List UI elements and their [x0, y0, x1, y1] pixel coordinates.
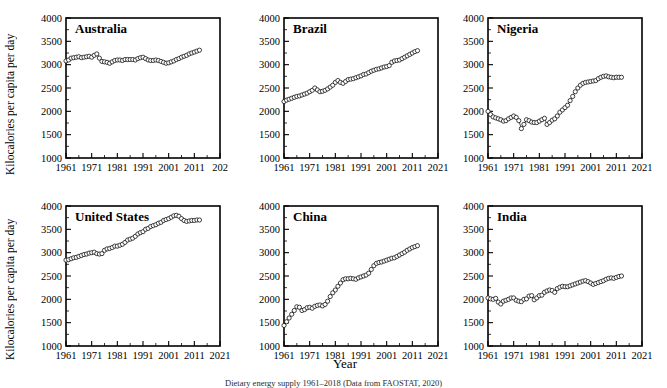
svg-text:2001: 2001 — [376, 162, 397, 173]
svg-text:1500: 1500 — [41, 317, 62, 328]
svg-text:202: 202 — [212, 162, 228, 173]
svg-text:2011: 2011 — [184, 162, 205, 173]
svg-text:1981: 1981 — [529, 350, 550, 361]
svg-text:2001: 2001 — [580, 162, 601, 173]
figure-dietary-energy-supply: Kilocalories per capita per day Kilocalo… — [0, 0, 667, 388]
svg-text:3000: 3000 — [463, 59, 484, 70]
svg-text:China: China — [293, 209, 327, 224]
svg-text:4000: 4000 — [463, 13, 484, 24]
svg-text:1991: 1991 — [133, 350, 154, 361]
svg-text:3500: 3500 — [259, 36, 280, 47]
svg-text:2011: 2011 — [606, 162, 627, 173]
svg-text:1500: 1500 — [463, 317, 484, 328]
svg-text:United States: United States — [75, 209, 149, 224]
svg-text:3000: 3000 — [259, 247, 280, 258]
svg-text:1961: 1961 — [274, 162, 295, 173]
panel-nigeria: 1000150020002500300035004000196119711981… — [452, 6, 652, 188]
svg-text:4000: 4000 — [41, 13, 62, 24]
svg-text:3500: 3500 — [41, 224, 62, 235]
svg-text:Australia: Australia — [75, 21, 128, 36]
svg-text:3000: 3000 — [259, 59, 280, 70]
x-axis-label: Year — [280, 356, 410, 372]
svg-text:1971: 1971 — [81, 162, 102, 173]
svg-text:1991: 1991 — [555, 350, 576, 361]
svg-text:4000: 4000 — [463, 201, 484, 212]
svg-text:3000: 3000 — [41, 247, 62, 258]
svg-text:1500: 1500 — [463, 129, 484, 140]
svg-text:4000: 4000 — [41, 201, 62, 212]
svg-text:1500: 1500 — [259, 129, 280, 140]
svg-text:1991: 1991 — [351, 162, 372, 173]
svg-text:2500: 2500 — [463, 83, 484, 94]
svg-text:1961: 1961 — [478, 162, 499, 173]
svg-text:2021: 2021 — [210, 350, 231, 361]
svg-text:3500: 3500 — [41, 36, 62, 47]
svg-text:1981: 1981 — [107, 350, 128, 361]
panel-brazil: 1000150020002500300035004000196119711981… — [248, 6, 448, 188]
panel-australia: 1000150020002500300035004000196119711981… — [30, 6, 230, 188]
svg-text:2500: 2500 — [41, 83, 62, 94]
svg-text:2011: 2011 — [606, 350, 627, 361]
svg-text:3500: 3500 — [259, 224, 280, 235]
svg-text:2021: 2021 — [428, 350, 449, 361]
svg-text:Brazil: Brazil — [293, 21, 327, 36]
panel-india: 1000150020002500300035004000196119711981… — [452, 194, 652, 376]
svg-text:1500: 1500 — [259, 317, 280, 328]
svg-text:2000: 2000 — [259, 294, 280, 305]
svg-text:1961: 1961 — [56, 350, 77, 361]
svg-text:2001: 2001 — [580, 350, 601, 361]
svg-text:2000: 2000 — [41, 106, 62, 117]
svg-text:1500: 1500 — [41, 129, 62, 140]
svg-text:2011: 2011 — [184, 350, 205, 361]
svg-text:1991: 1991 — [133, 162, 154, 173]
y-axis-label-top: Kilocalories per capita per day — [4, 20, 16, 175]
svg-text:1981: 1981 — [325, 162, 346, 173]
svg-text:2000: 2000 — [259, 106, 280, 117]
svg-text:2500: 2500 — [259, 83, 280, 94]
svg-text:1961: 1961 — [478, 350, 499, 361]
svg-text:3500: 3500 — [463, 36, 484, 47]
svg-text:2500: 2500 — [41, 271, 62, 282]
svg-text:1981: 1981 — [529, 162, 550, 173]
svg-text:2500: 2500 — [259, 271, 280, 282]
svg-text:2021: 2021 — [632, 350, 653, 361]
svg-text:2001: 2001 — [158, 162, 179, 173]
svg-text:Nigeria: Nigeria — [497, 21, 539, 36]
svg-text:1971: 1971 — [299, 162, 320, 173]
svg-text:4000: 4000 — [259, 13, 280, 24]
y-axis-label-bottom: Kilocalories per capita per day — [4, 205, 16, 360]
svg-text:1971: 1971 — [503, 350, 524, 361]
svg-text:2000: 2000 — [463, 106, 484, 117]
svg-text:2000: 2000 — [463, 294, 484, 305]
svg-text:India: India — [497, 209, 527, 224]
panel-united-states: 1000150020002500300035004000196119711981… — [30, 194, 230, 376]
svg-text:1961: 1961 — [56, 162, 77, 173]
svg-text:1971: 1971 — [81, 350, 102, 361]
svg-text:2000: 2000 — [41, 294, 62, 305]
svg-text:3000: 3000 — [41, 59, 62, 70]
svg-text:1981: 1981 — [107, 162, 128, 173]
svg-text:2021: 2021 — [428, 162, 449, 173]
figure-caption: Dietary energy supply 1961–2018 (Data fr… — [0, 378, 667, 388]
svg-text:1991: 1991 — [555, 162, 576, 173]
svg-text:2011: 2011 — [402, 162, 423, 173]
svg-text:1971: 1971 — [503, 162, 524, 173]
svg-text:2001: 2001 — [158, 350, 179, 361]
panel-china: 1000150020002500300035004000196119711981… — [248, 194, 448, 376]
svg-text:2500: 2500 — [463, 271, 484, 282]
svg-text:2021: 2021 — [632, 162, 653, 173]
svg-text:4000: 4000 — [259, 201, 280, 212]
svg-text:3500: 3500 — [463, 224, 484, 235]
svg-text:3000: 3000 — [463, 247, 484, 258]
